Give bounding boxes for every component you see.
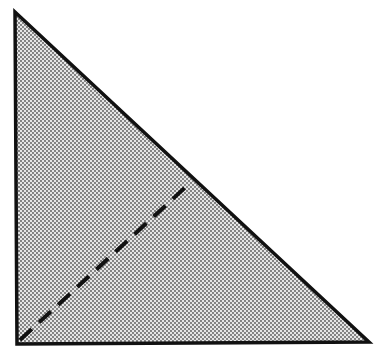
right-triangle-diagram <box>0 0 376 362</box>
